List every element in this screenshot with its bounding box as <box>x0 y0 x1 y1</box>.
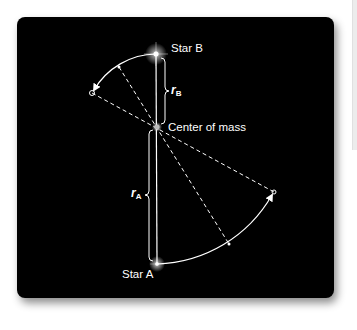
diagram-panel: Star B Center of mass Star A rB rA <box>17 17 334 298</box>
star-a-icon <box>155 262 159 266</box>
star-b-label: Star B <box>171 43 203 55</box>
r-b-subscript: B <box>176 89 182 98</box>
star-connecting-line <box>156 54 157 264</box>
star-a-tick <box>228 243 231 246</box>
center-of-mass-label: Center of mass <box>168 122 246 134</box>
star-a-orbit-arc <box>157 195 272 264</box>
r-a-subscript: A <box>136 192 142 201</box>
star-b-tick <box>118 66 121 69</box>
star-a-label: Star A <box>122 269 153 281</box>
r-a-label: rA <box>131 187 141 201</box>
star-b-icon <box>154 52 159 57</box>
r-a-brace <box>145 130 153 261</box>
center-of-mass-point <box>155 125 160 130</box>
dashed-line-future <box>92 93 274 192</box>
page: Star B Center of mass Star A rB rA <box>0 0 357 330</box>
r-b-brace <box>161 58 169 124</box>
side-strip <box>352 0 357 150</box>
orbit-diagram <box>17 17 334 298</box>
r-b-label: rB <box>171 84 181 98</box>
